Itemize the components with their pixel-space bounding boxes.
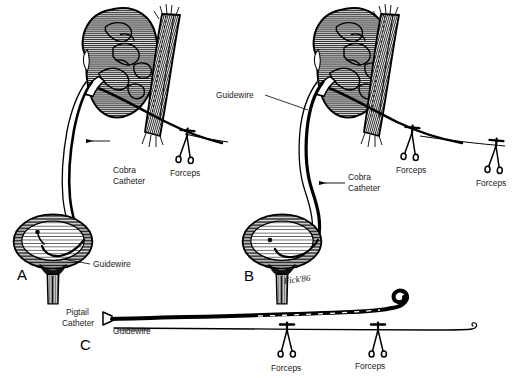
panel-letter-b: B: [244, 267, 254, 284]
label-cobra-catheter-a-line1: Cobra: [113, 165, 136, 175]
figure-canvas: Cobra Catheter Forceps Guidewire A: [0, 0, 522, 378]
label-forceps-b-left: Forceps: [396, 165, 426, 175]
guidewire-tip-marker-a: [35, 230, 40, 235]
panel-letter-c: C: [80, 336, 91, 353]
panel-letter-a: A: [17, 266, 27, 283]
label-guidewire-c: Guidewire: [113, 326, 151, 336]
label-forceps-c-left: Forceps: [271, 363, 301, 373]
label-forceps-b-right: Forceps: [476, 178, 506, 188]
label-guidewire-a: Guidewire: [93, 259, 131, 269]
label-cobra-catheter-b-line2: Catheter: [348, 183, 380, 193]
guidewire-tip-marker-b: [268, 238, 273, 243]
label-cobra-catheter-a-line2: Catheter: [113, 176, 145, 186]
label-pigtail-catheter-line2: Catheter: [62, 318, 94, 328]
label-forceps-a: Forceps: [170, 168, 200, 178]
label-guidewire-b: Guidewire: [216, 90, 254, 100]
label-forceps-c-right: Forceps: [355, 361, 385, 371]
illustration-svg: Cobra Catheter Forceps Guidewire A: [0, 0, 522, 378]
label-cobra-catheter-b-line1: Cobra: [348, 172, 371, 182]
label-pigtail-catheter-line1: Pigtail: [66, 307, 89, 317]
